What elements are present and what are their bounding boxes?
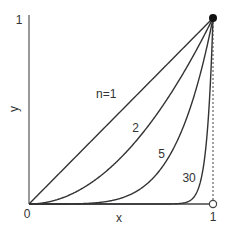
x-tick-0: 0 <box>24 207 31 221</box>
curve-label-n-30: 30 <box>182 171 196 185</box>
open-point <box>209 200 216 207</box>
axes: 1 0 1 x y <box>7 13 217 225</box>
curve-label-n-1: n=1 <box>96 87 117 101</box>
chart: 1 0 1 x y n=12530 <box>0 0 229 236</box>
curve-labels: n=12530 <box>96 87 196 185</box>
curve-label-n-2: 2 <box>132 121 139 135</box>
x-tick-1: 1 <box>210 210 217 224</box>
y-tick-1: 1 <box>16 13 23 27</box>
x-axis-label: x <box>116 211 122 225</box>
curve-label-n-5: 5 <box>158 147 165 161</box>
filled-point <box>209 14 217 22</box>
y-axis-label: y <box>7 106 21 112</box>
